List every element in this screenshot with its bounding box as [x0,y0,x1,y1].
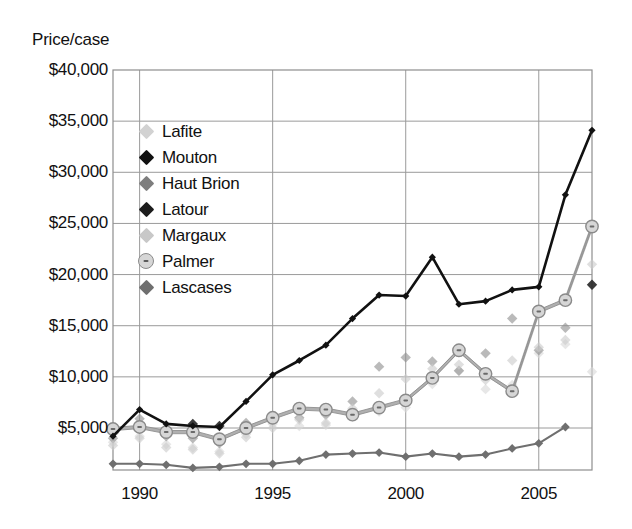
y-tick-20000: $20,000 [0,265,108,285]
marker-margaux [587,259,597,269]
legend-item-margaux[interactable]: Margaux [138,222,239,248]
diamond-icon [138,123,155,140]
marker-haut-brion [560,323,570,333]
marker-lascases [481,450,490,459]
marker-haut-brion [401,352,411,362]
marker-margaux [507,355,517,365]
marker-palmer-dot [510,390,515,392]
x-tick-2005: 2005 [520,484,557,504]
y-tick-30000: $30,000 [0,162,108,182]
marker-latour [509,286,516,293]
marker-margaux [374,388,384,398]
y-tick-5000: $5,000 [0,418,108,438]
marker-palmer-dot [350,414,355,416]
price-per-case-line-chart: Price/case $40,000$35,000$30,000$25,000$… [0,0,632,529]
marker-palmer-dot [164,431,169,433]
x-tick-2000: 2000 [387,484,424,504]
chart-legend: LafiteMoutonHaut BrionLatourMargauxPalme… [138,118,239,300]
legend-label: Haut Brion [162,175,239,192]
marker-palmer-dot [403,399,408,401]
marker-lafite [587,367,597,377]
marker-palmer-dot [377,407,382,409]
marker-palmer-dot [430,377,435,379]
marker-mouton [587,280,597,290]
legend-label: Lafite [162,123,202,140]
y-tick-40000: $40,000 [0,60,108,80]
line-series-lascases [109,423,570,473]
x-tick-1995: 1995 [254,484,291,504]
marker-palmer-dot [244,427,249,429]
marker-lascases [428,449,437,458]
legend-item-palmer[interactable]: Palmer [138,248,239,274]
marker-palmer-dot [457,349,462,351]
marker-lascases [401,452,410,461]
marker-palmer-dot [137,426,142,428]
marker-lascases [242,459,251,468]
diamond-icon [138,227,155,244]
marker-lascases [348,449,357,458]
legend-label: Mouton [162,149,217,166]
marker-palmer-dot [111,428,116,430]
marker-palmer-dot [324,409,329,411]
marker-palmer-dot [536,310,541,312]
legend-label: Latour [162,201,208,218]
diamond-icon [138,279,155,296]
marker-palmer-dot [191,431,196,433]
diamond-icon [138,149,155,166]
marker-lascases [321,450,330,459]
legend-item-mouton[interactable]: Mouton [138,144,239,170]
marker-margaux [294,415,304,425]
marker-palmer-dot [270,417,275,419]
legend-item-lascases[interactable]: Lascases [138,274,239,300]
marker-lascases [455,452,464,461]
legend-label: Lascases [162,279,231,296]
y-tick-25000: $25,000 [0,213,108,233]
marker-lascases [268,459,277,468]
marker-lascases [162,460,171,469]
marker-lascases [135,459,144,468]
marker-palmer-dot [217,438,222,440]
marker-latour [588,127,595,134]
marker-latour [562,191,569,198]
y-tick-10000: $10,000 [0,367,108,387]
marker-lascases [508,444,517,453]
marker-margaux [214,448,224,458]
x-tick-1990: 1990 [121,484,158,504]
marker-lascases [109,459,118,468]
marker-palmer-dot [590,225,595,227]
marker-lascases [295,456,304,465]
legend-item-lafite[interactable]: Lafite [138,118,239,144]
diamond-icon [138,175,155,192]
marker-latour [482,298,489,305]
diamond-icon [138,201,155,218]
marker-palmer-dot [297,408,302,410]
marker-lascases [375,448,384,457]
legend-item-haut-brion[interactable]: Haut Brion [138,170,239,196]
marker-margaux [401,374,411,384]
y-tick-35000: $35,000 [0,111,108,131]
legend-item-latour[interactable]: Latour [138,196,239,222]
marker-margaux [321,418,331,428]
marker-palmer-dot [563,299,568,301]
marker-haut-brion [507,313,517,323]
marker-palmer-dot [483,373,488,375]
y-tick-15000: $15,000 [0,316,108,336]
marker-lafite [480,384,490,394]
legend-label: Palmer [162,253,214,270]
legend-label: Margaux [162,227,226,244]
marker-lascases [188,463,197,472]
circle-dot-icon [138,253,155,270]
marker-haut-brion [374,361,384,371]
marker-margaux [188,444,198,454]
marker-haut-brion [480,348,490,358]
marker-margaux [454,359,464,369]
marker-latour [535,283,542,290]
marker-margaux [134,433,144,443]
